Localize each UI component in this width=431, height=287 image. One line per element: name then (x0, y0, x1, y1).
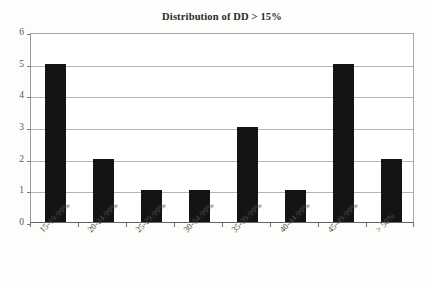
x-tick-mark (78, 223, 79, 227)
x-tick-mark (366, 223, 367, 227)
y-tick-mark (27, 97, 31, 98)
y-tick-label: 6 (2, 28, 24, 38)
x-tick-mark (174, 223, 175, 227)
y-tick-label: 2 (2, 155, 24, 165)
y-tick-label: 4 (2, 91, 24, 101)
gridline (31, 161, 413, 162)
x-tick-mark (222, 223, 223, 227)
x-axis-labels: 15-19.99%20-24.99%25-29.99%30-34.99%35-3… (30, 228, 414, 287)
bar (45, 64, 66, 222)
y-axis: 0123456 (0, 33, 24, 223)
gridline (31, 97, 413, 98)
y-tick-label: 1 (2, 186, 24, 196)
x-tick-mark (318, 223, 319, 227)
y-tick-mark (27, 161, 31, 162)
gridline (31, 192, 413, 193)
bar (333, 64, 354, 222)
gridline (31, 129, 413, 130)
x-tick-mark (270, 223, 271, 227)
y-tick-label: 5 (2, 60, 24, 70)
x-tick-mark (126, 223, 127, 227)
y-tick-label: 3 (2, 123, 24, 133)
chart-title: Distribution of DD > 15% (30, 11, 414, 22)
x-tick-mark (30, 223, 31, 227)
y-tick-mark (27, 66, 31, 67)
y-tick-mark (27, 34, 31, 35)
x-tick-mark (413, 223, 414, 227)
gridline (31, 66, 413, 67)
y-tick-label: 0 (2, 218, 24, 228)
plot-area (30, 33, 414, 223)
y-tick-mark (27, 192, 31, 193)
bar-chart-figure: Distribution of DD > 15% 0123456 15-19.9… (0, 0, 431, 287)
y-tick-mark (27, 129, 31, 130)
